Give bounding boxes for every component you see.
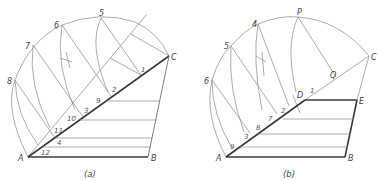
ray-5 bbox=[101, 18, 141, 75]
label-7: 7 bbox=[25, 42, 31, 51]
line-DC bbox=[305, 56, 369, 100]
bisector-mark bbox=[256, 52, 266, 76]
label-1: 1 bbox=[141, 66, 145, 74]
label-C: C bbox=[171, 53, 177, 62]
label-9: 9 bbox=[230, 143, 235, 151]
label-A: A bbox=[215, 154, 221, 163]
label-4: 4 bbox=[57, 139, 61, 147]
label-3: 3 bbox=[244, 133, 248, 141]
label-E: E bbox=[359, 97, 365, 106]
label-7: 7 bbox=[268, 115, 273, 123]
label-B: B bbox=[348, 154, 354, 163]
line-AC bbox=[28, 56, 169, 157]
figure-a: A B C 8 7 6 5 1 2 9 3 10 11 4 12 (a) bbox=[7, 9, 177, 179]
swing-arc-5 bbox=[231, 46, 244, 132]
line-BE bbox=[345, 100, 357, 157]
label-8: 8 bbox=[7, 77, 12, 86]
ray-arc-c bbox=[131, 34, 169, 56]
swing-arc-P bbox=[291, 17, 298, 92]
label-4: 4 bbox=[252, 20, 257, 29]
label-D: D bbox=[297, 91, 303, 100]
label-5: 5 bbox=[99, 9, 104, 18]
caption-a: (a) bbox=[84, 169, 96, 179]
label-9: 9 bbox=[96, 97, 101, 105]
label-2: 2 bbox=[281, 107, 286, 115]
label-C: C bbox=[371, 53, 377, 62]
figure-b: A B C D E P Q 6 5 4 1 2 7 8 3 9 (b) bbox=[204, 8, 377, 179]
swing-arc-6 bbox=[212, 80, 232, 148]
line-AD bbox=[226, 100, 305, 157]
geometric-construction-diagram: A B C 8 7 6 5 1 2 9 3 10 11 4 12 (a) bbox=[0, 0, 388, 181]
ray-6 bbox=[212, 80, 250, 133]
ray-P bbox=[298, 17, 336, 77]
label-6: 6 bbox=[204, 77, 209, 86]
label-10: 10 bbox=[67, 115, 76, 123]
label-8: 8 bbox=[256, 124, 261, 132]
label-5: 5 bbox=[224, 42, 229, 51]
label-12: 12 bbox=[41, 149, 50, 157]
label-3: 3 bbox=[84, 107, 88, 115]
label-P: P bbox=[297, 8, 302, 17]
label-2: 2 bbox=[112, 86, 117, 94]
label-1: 1 bbox=[310, 87, 314, 95]
label-B: B bbox=[151, 154, 157, 163]
ray-4 bbox=[258, 24, 289, 106]
swing-arc-6 bbox=[60, 25, 75, 110]
swing-arc-7 bbox=[32, 45, 50, 128]
outer-arc bbox=[210, 17, 369, 157]
swing-arc-4 bbox=[256, 24, 262, 110]
label-6: 6 bbox=[54, 21, 59, 30]
line-BC bbox=[148, 56, 169, 157]
label-Q: Q bbox=[330, 71, 336, 80]
ray-6 bbox=[62, 25, 111, 96]
ray-8 bbox=[15, 80, 55, 138]
label-11: 11 bbox=[54, 127, 63, 135]
swing-arc-5 bbox=[96, 18, 108, 92]
ray-mid bbox=[110, 58, 141, 75]
caption-b: (b) bbox=[283, 169, 295, 179]
label-A: A bbox=[17, 154, 23, 163]
